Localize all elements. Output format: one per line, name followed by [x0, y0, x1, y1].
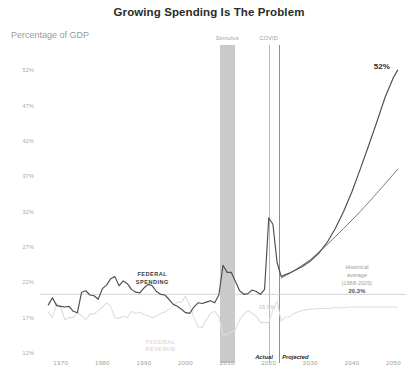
y-axis-tick: 52%	[23, 67, 40, 73]
plot-area: Stimulus COVID Actual Projected FEDERAL …	[40, 56, 406, 353]
y-axis-tick: 27%	[23, 244, 40, 250]
series-canvas	[40, 56, 406, 353]
y-axis-tick: 17%	[23, 315, 40, 321]
y-axis-tick: 32%	[23, 209, 40, 215]
hist-avg-line1: Historical	[345, 264, 368, 270]
spending-label-line1: FEDERAL	[137, 271, 167, 277]
historical-average-annotation: Historical average (1968-2020) 20.3%	[327, 264, 387, 296]
peak-value-label: 52%	[374, 62, 390, 71]
series-line-federal-revenue	[48, 296, 397, 334]
x-axis-tick: 2030	[303, 359, 318, 366]
series-label-federal-spending: FEDERAL SPENDING	[136, 271, 169, 286]
y-axis-tick: 42%	[23, 138, 40, 144]
covid-marker-label: COVID	[259, 35, 278, 41]
y-axis-tick: 12%	[23, 350, 40, 356]
x-axis-tick: 1980	[95, 359, 110, 366]
y-axis-caption: Percentage of GDP	[11, 30, 89, 40]
page-title: Growing Spending Is The Problem	[0, 6, 418, 18]
hist-avg-line3: (1968-2020)	[342, 280, 372, 286]
x-axis-tick: 2010	[220, 359, 235, 366]
x-axis-tick: 1990	[136, 359, 151, 366]
y-axis-tick: 37%	[23, 173, 40, 179]
series-line-historical-average-projection	[281, 169, 397, 278]
revenue-value-label: 18.5%	[258, 304, 274, 310]
x-axis-tick: 2020	[261, 359, 276, 366]
x-axis-tick: 2050	[386, 359, 401, 366]
y-axis-tick: 47%	[23, 103, 40, 109]
x-axis-tick: 1970	[53, 359, 68, 366]
y-axis-tick: 22%	[23, 279, 40, 285]
hist-avg-value: 20.3%	[349, 288, 366, 294]
chart-root: Growing Spending Is The Problem Percenta…	[0, 0, 418, 387]
revenue-label-line1: FEDERAL	[146, 339, 176, 345]
x-axis-tick: 2040	[344, 359, 359, 366]
hist-avg-line2: average	[347, 272, 367, 278]
revenue-label-line2: REVENUE	[146, 346, 176, 352]
spending-label-line2: SPENDING	[136, 279, 169, 285]
series-label-federal-revenue: FEDERAL REVENUE	[146, 339, 176, 354]
stimulus-band-label: Stimulus	[216, 35, 239, 41]
x-axis-tick: 2000	[178, 359, 193, 366]
